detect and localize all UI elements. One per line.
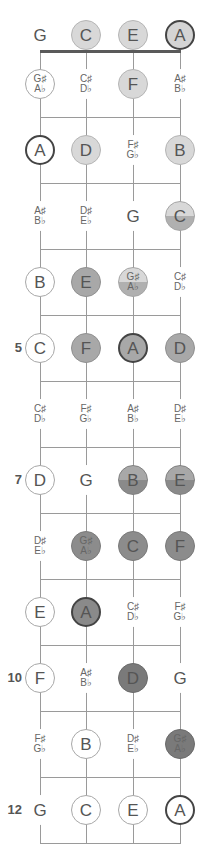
note-label: C <box>34 340 46 357</box>
note-label: C <box>127 538 139 555</box>
note-label: F <box>175 538 185 555</box>
fret-line-3 <box>40 249 181 250</box>
note-c-string-fret-7: G <box>71 465 101 495</box>
note-a-string-fret-6: D♯E♭ <box>165 399 195 429</box>
note-label: B <box>80 736 91 753</box>
note-label: E <box>34 604 45 621</box>
fret-line-5 <box>40 381 181 382</box>
note-label: F <box>128 76 138 93</box>
note-label: G <box>33 802 46 819</box>
note-g-string-fret-8: D♯E♭ <box>25 531 55 561</box>
note-flat-label: E♭ <box>34 546 46 556</box>
note-g-string-fret-6: C♯D♭ <box>25 399 55 429</box>
note-label: E <box>127 27 138 44</box>
note-label: A <box>127 340 138 357</box>
note-label: B <box>127 472 138 489</box>
note-flat-label: A♭ <box>127 282 139 292</box>
note-g-string-fret-12: G <box>25 795 55 825</box>
note-e-string-fret-6: A♯B♭ <box>118 399 148 429</box>
note-a-string-fret-3: C <box>165 201 195 231</box>
fret-number-10: 10 <box>0 670 22 685</box>
note-g-string-fret-5: C <box>25 333 55 363</box>
note-flat-label: G♭ <box>174 612 187 622</box>
note-c-string-fret-4: E <box>71 267 101 297</box>
note-label: D <box>80 142 92 159</box>
note-g-string-fret-3: A♯B♭ <box>25 201 55 231</box>
note-e-string-fret-7: B <box>118 465 148 495</box>
note-c-string-fret-12: C <box>71 795 101 825</box>
note-g-string-fret-9: E <box>25 597 55 627</box>
note-label: E <box>174 472 185 489</box>
note-c-string-fret-10: A♯B♭ <box>71 663 101 693</box>
fret-line-9 <box>40 645 181 646</box>
note-c-string-fret-2: D <box>71 135 101 165</box>
note-e-string-fret-11: D♯E♭ <box>118 729 148 759</box>
note-a-string-fret-11: G♯A♭ <box>165 729 195 759</box>
note-e-string-fret-1: F <box>118 69 148 99</box>
note-e-string-fret-4: G♯A♭ <box>118 267 148 297</box>
note-flat-label: D♭ <box>174 282 186 292</box>
note-a-string-fret-5: D <box>165 333 195 363</box>
note-e-string-fret-10: D <box>118 663 148 693</box>
fret-number-7: 7 <box>0 472 22 487</box>
note-label: D <box>174 340 186 357</box>
note-c-string-fret-8: G♯A♭ <box>71 531 101 561</box>
note-label: A <box>174 802 185 819</box>
note-e-string-fret-5: A <box>118 333 148 363</box>
note-flat-label: G♭ <box>34 744 47 754</box>
fret-number-12: 12 <box>0 802 22 817</box>
note-c-string-fret-0: C <box>71 20 101 50</box>
note-flat-label: E♭ <box>80 216 92 226</box>
note-label: C <box>80 802 92 819</box>
note-g-string-fret-4: B <box>25 267 55 297</box>
note-e-string-fret-9: C♯D♭ <box>118 597 148 627</box>
note-a-string-fret-10: G <box>165 663 195 693</box>
fret-line-2 <box>40 183 181 184</box>
fret-line-10 <box>40 711 181 712</box>
fret-line-12 <box>40 843 181 844</box>
fret-number-5: 5 <box>0 340 22 355</box>
fret-line-8 <box>40 579 181 580</box>
fret-line-4 <box>40 315 181 316</box>
note-a-string-fret-8: F <box>165 531 195 561</box>
note-c-string-fret-1: C♯D♭ <box>71 69 101 99</box>
note-a-string-fret-0: A <box>165 20 195 50</box>
note-label: C <box>80 27 92 44</box>
note-c-string-fret-5: F <box>71 333 101 363</box>
note-a-string-fret-1: A♯B♭ <box>165 69 195 99</box>
note-c-string-fret-9: A <box>71 597 101 627</box>
note-label: D <box>127 670 139 687</box>
note-label: G <box>126 208 139 225</box>
note-flat-label: B♭ <box>34 216 46 226</box>
note-flat-label: A♭ <box>174 744 186 754</box>
note-e-string-fret-0: E <box>118 20 148 50</box>
note-label: A <box>34 142 45 159</box>
fret-line-6 <box>40 447 181 448</box>
note-flat-label: B♭ <box>174 84 186 94</box>
note-label: D <box>34 472 46 489</box>
note-label: E <box>127 802 138 819</box>
note-label: A <box>80 604 91 621</box>
note-label: C <box>174 208 186 225</box>
note-flat-label: D♭ <box>34 414 46 424</box>
note-label: B <box>174 142 185 159</box>
note-label: G <box>33 27 46 44</box>
fret-line-1 <box>40 117 181 118</box>
note-flat-label: G♭ <box>127 150 140 160</box>
note-e-string-fret-2: F♯G♭ <box>118 135 148 165</box>
note-g-string-fret-1: G♯A♭ <box>25 69 55 99</box>
note-g-string-fret-10: F <box>25 663 55 693</box>
note-flat-label: B♭ <box>80 678 92 688</box>
note-flat-label: A♭ <box>80 546 92 556</box>
note-g-string-fret-11: F♯G♭ <box>25 729 55 759</box>
note-flat-label: E♭ <box>127 744 139 754</box>
note-label: G <box>79 472 92 489</box>
note-a-string-fret-12: A <box>165 795 195 825</box>
note-label: A <box>174 27 185 44</box>
note-c-string-fret-3: D♯E♭ <box>71 201 101 231</box>
note-label: F <box>35 670 45 687</box>
note-flat-label: G♭ <box>80 414 93 424</box>
note-flat-label: D♭ <box>127 612 139 622</box>
note-c-string-fret-11: B <box>71 729 101 759</box>
note-e-string-fret-12: E <box>118 795 148 825</box>
